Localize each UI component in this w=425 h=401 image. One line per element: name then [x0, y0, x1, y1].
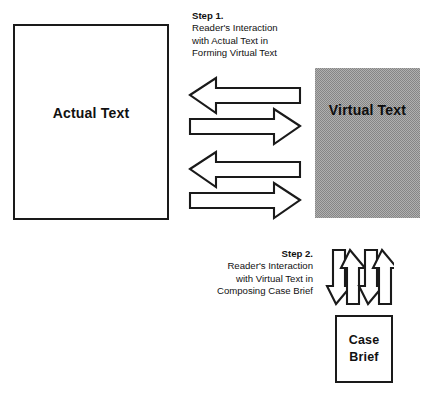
- arrow-right-1-icon: [190, 109, 300, 144]
- diagram-canvas: Actual Text Step 1. Reader's Interaction…: [0, 0, 425, 401]
- step2-line-2: with Virtual Text in: [193, 273, 313, 285]
- step1-heading: Step 1.: [192, 10, 278, 22]
- step1-line-3: Forming Virtual Text: [192, 47, 278, 59]
- arrow-right-2-icon: [190, 183, 300, 218]
- step2-line-3: Composing Case Brief: [193, 285, 313, 297]
- virtual-text-label: Virtual Text: [329, 102, 406, 118]
- vertical-arrows-svg: [324, 246, 394, 308]
- case-brief-label: Case Brief: [349, 332, 380, 366]
- actual-text-label: Actual Text: [53, 105, 130, 121]
- step1-line-1: Reader's Interaction: [192, 22, 278, 34]
- horizontal-arrows-svg: [186, 74, 304, 222]
- step2-bidirectional-arrows: [324, 246, 394, 308]
- actual-text-box: Actual Text: [13, 24, 169, 220]
- case-brief-box: Case Brief: [335, 315, 393, 383]
- step2-line-1: Reader's Interaction: [193, 260, 313, 272]
- case-brief-line-2: Brief: [349, 350, 378, 364]
- step1-bidirectional-arrows: [186, 74, 304, 222]
- case-brief-line-1: Case: [349, 333, 380, 347]
- step1-line-2: with Actual Text in: [192, 35, 278, 47]
- virtual-text-box: Virtual Text: [315, 68, 420, 218]
- arrow-left-2-icon: [190, 152, 300, 187]
- step1-caption: Step 1. Reader's Interaction with Actual…: [192, 10, 278, 60]
- step2-heading: Step 2.: [193, 248, 313, 260]
- step2-caption: Step 2. Reader's Interaction with Virtua…: [193, 248, 313, 298]
- arrow-left-1-icon: [190, 78, 300, 113]
